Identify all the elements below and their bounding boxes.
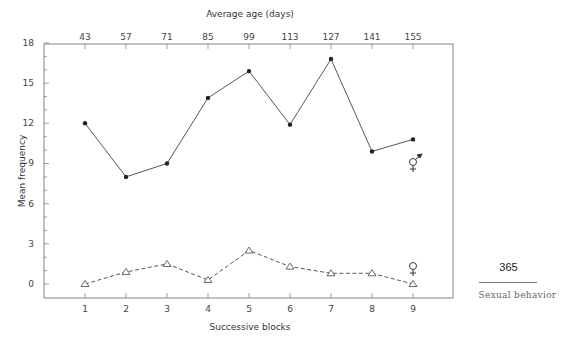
top-tick-label: 127	[322, 32, 339, 42]
top-tick-label: 71	[161, 32, 172, 42]
top-tick-label: 57	[120, 32, 131, 42]
line-chart: 0369121518 123456789 4357718599113127141…	[0, 0, 569, 340]
series-group	[81, 57, 417, 287]
x-tick-label: 5	[246, 304, 252, 314]
y-tick-label: 6	[28, 199, 34, 209]
y-tick-label: 18	[23, 38, 35, 48]
data-point-triangle	[245, 247, 253, 253]
top-tick-label: 141	[363, 32, 380, 42]
data-point-triangle	[286, 263, 294, 269]
x-tick-label: 9	[410, 304, 416, 314]
male-female-symbol	[410, 154, 423, 172]
section-title: Sexual behavior	[466, 290, 569, 300]
data-point-circle	[165, 161, 169, 165]
top-tick-label: 85	[202, 32, 213, 42]
y-tick-label: 15	[23, 78, 34, 88]
data-point-circle	[411, 137, 415, 141]
data-point-triangle	[163, 260, 171, 266]
x-tick-label: 7	[328, 304, 334, 314]
data-point-circle	[206, 96, 210, 100]
y-tick-label: 9	[28, 158, 34, 168]
female-symbol	[410, 263, 417, 277]
data-point-circle	[124, 175, 128, 179]
x-tick-label: 1	[82, 304, 88, 314]
x-tick-label: 6	[287, 304, 293, 314]
data-point-circle	[370, 149, 374, 153]
y-tick-label: 3	[28, 239, 34, 249]
x-axis-bottom: 123456789	[82, 293, 416, 314]
data-point-circle	[247, 69, 251, 73]
x-tick-label: 2	[123, 304, 129, 314]
x-tick-label: 3	[164, 304, 170, 314]
top-axis-title: Average age (days)	[206, 9, 294, 19]
x-tick-label: 4	[205, 304, 211, 314]
plot-frame	[44, 44, 453, 298]
x-axis-top: 4357718599113127141155	[79, 32, 421, 49]
x-tick-label: 8	[369, 304, 375, 314]
page-number: 365	[481, 261, 536, 273]
dashed-series-line	[85, 251, 413, 284]
y-tick-label: 12	[23, 118, 34, 128]
y-axis-title: Mean frequency	[17, 134, 27, 207]
top-tick-label: 43	[79, 32, 90, 42]
top-tick-label: 99	[243, 32, 255, 42]
x-axis-title: Successive blocks	[209, 322, 290, 332]
data-point-circle	[288, 122, 292, 126]
data-point-triangle	[368, 270, 376, 276]
data-point-triangle	[204, 276, 212, 282]
data-point-circle	[329, 57, 333, 61]
data-point-circle	[83, 121, 87, 125]
divider	[479, 282, 537, 283]
top-tick-label: 155	[404, 32, 421, 42]
y-tick-label: 0	[28, 279, 34, 289]
top-tick-label: 113	[281, 32, 298, 42]
solid-series-line	[85, 59, 413, 177]
